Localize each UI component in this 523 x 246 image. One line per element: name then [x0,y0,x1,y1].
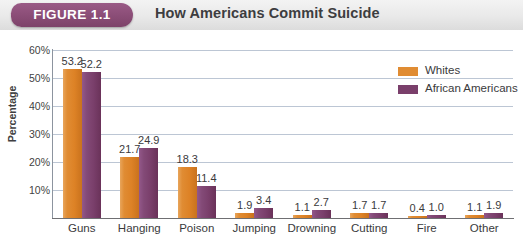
x-axis-category-label: Other [450,222,520,234]
gridline [53,50,513,51]
y-axis-line [52,49,53,219]
bar-hanging-whites [120,157,139,218]
chart-title: How Americans Commit Suicide [155,5,380,21]
y-axis-tick-label: 20% [4,156,50,168]
gridline [53,78,513,79]
bar-poison-african-americans [197,186,216,218]
legend-item-label: African Americans [425,82,518,94]
bar-value-label: 11.4 [191,172,222,184]
bar-value-label: 2.7 [306,196,337,208]
bar-value-label: 18.3 [172,153,203,165]
bar-value-label: 3.4 [248,194,279,206]
y-axis-title: Percentage [6,72,18,156]
legend-swatch-icon [398,85,418,94]
legend-swatch-icon [398,67,418,76]
bar-guns-african-americans [82,72,101,218]
figure-header-band: FIGURE 1.1 How Americans Commit Suicide [0,0,523,30]
bar-value-label: 1.0 [421,201,452,213]
bar-value-label: 1.7 [363,199,394,211]
bar-hanging-african-americans [139,148,158,218]
gridline [53,134,513,135]
y-axis-tick-label: 60% [4,44,50,56]
bar-guns-whites [63,69,82,218]
bar-value-label: 1.9 [478,199,509,211]
x-axis-line [52,218,514,219]
figure-panel: FIGURE 1.1 How Americans Commit Suicide … [0,0,523,246]
gridline [53,106,513,107]
bar-value-label: 24.9 [133,134,164,146]
legend-item-label: Whites [425,64,460,76]
y-axis-tick-label: 10% [4,184,50,196]
bar-value-label: 52.2 [76,58,107,70]
